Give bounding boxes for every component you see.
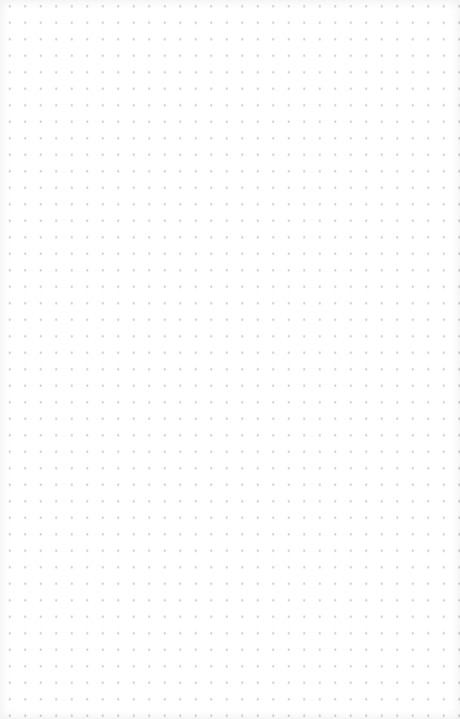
- dot-grid-canvas[interactable]: [0, 0, 460, 719]
